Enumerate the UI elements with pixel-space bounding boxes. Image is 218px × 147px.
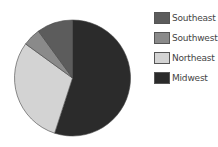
legend-swatch-southeast xyxy=(154,12,170,24)
legend-item-midwest: Midwest xyxy=(154,71,208,85)
legend-item-northeast: Northeast xyxy=(154,51,215,65)
legend-label: Midwest xyxy=(172,73,208,83)
legend-swatch-northeast xyxy=(154,52,170,64)
legend-swatch-southwest xyxy=(154,32,170,44)
legend-label: Southeast xyxy=(172,13,216,23)
legend-label: Northeast xyxy=(172,53,215,63)
legend-label: Southwest xyxy=(172,33,217,43)
legend-item-southwest: Southwest xyxy=(154,31,217,45)
pie-slices xyxy=(15,20,131,136)
legend-swatch-midwest xyxy=(154,72,170,84)
legend-item-southeast: Southeast xyxy=(154,11,216,25)
